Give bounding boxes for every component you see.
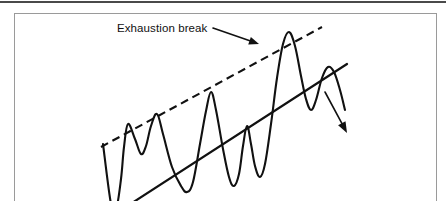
annotation-pointer-shaft	[213, 28, 250, 41]
annotation-pointer-head	[248, 37, 259, 45]
exhaustion-break-label: Exhaustion break	[117, 22, 207, 34]
figure-root: Exhaustion break	[0, 0, 446, 201]
breakdown-arrow-head	[338, 121, 347, 133]
price-line	[103, 32, 345, 201]
exhaustion-break-chart	[15, 14, 437, 201]
illustration-box	[14, 13, 437, 201]
breakdown-arrow-shaft	[325, 92, 343, 126]
top-horizontal-rule	[0, 1, 446, 3]
upper-resistance-trendline	[101, 27, 322, 147]
